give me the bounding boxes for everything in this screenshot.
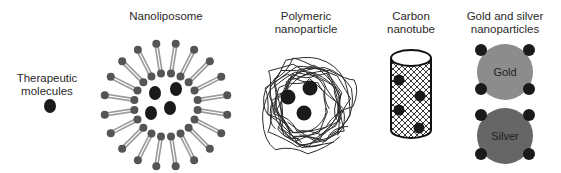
lipid-tail [111,121,138,135]
lipid-head-outer [172,40,180,48]
lipid-head-outer [107,129,115,137]
lipid-molecule [191,116,226,138]
lipid-tail [179,49,193,76]
lipid-tail [195,78,222,92]
lipid-head-outer [152,40,160,48]
lipid-tail [190,127,211,148]
encapsulated-drug [297,106,312,121]
lipid-head-outer [223,111,231,119]
lipid-head-inner [177,130,185,138]
lipid-head-outer [172,162,180,170]
lipid-tail [194,76,221,90]
encapsulated-drug [170,82,182,96]
lipid-head-inner [194,106,202,114]
nanotube-drug [414,123,425,134]
gold-surface-drug [523,83,535,95]
gold-surface-drug [475,83,487,95]
lipid-tail [182,133,196,160]
lipid-tail [121,62,142,83]
lipid-tail [179,134,193,161]
lipid-head-outer [101,91,109,99]
lipid-molecule [194,106,232,119]
lipid-tail [123,129,144,150]
lipid-molecule [101,106,139,119]
lipid-molecule [177,46,199,81]
lipid-head-inner [147,72,155,80]
encapsulated-drug [303,81,318,96]
lipid-molecule [134,130,156,165]
polymer-chains [263,57,357,153]
lipid-tail [190,62,211,83]
lipid-molecule [152,40,165,78]
lipid-tail [195,118,222,132]
lipid-tail [137,133,151,160]
therapeutic-molecule [44,99,56,113]
lipid-molecule [167,40,180,78]
lipid-molecule [177,130,199,165]
lipid-tail [111,76,138,90]
lipid-tail [182,50,196,77]
silver-surface-drug [475,109,487,121]
lipid-head-outer [101,111,109,119]
lipid-molecule [194,91,232,104]
nanotube-drug [415,91,426,102]
nanotube-drug [394,75,405,86]
lipid-head-inner [185,78,193,86]
lipid-head-inner [139,124,147,132]
lipid-head-outer [190,156,198,164]
silver-surface-drug [523,109,535,121]
lipid-head-inner [157,69,165,77]
lipid-head-inner [133,116,141,124]
lipid-head-inner [167,69,175,77]
lipid-head-inner [194,96,202,104]
lipid-head-inner [133,86,141,94]
lipid-tail [110,118,137,132]
lipid-tail [110,78,137,92]
silver-surface-drug [475,148,487,160]
lipid-head-outer [206,57,214,65]
lipid-head-outer [152,162,160,170]
lipid-head-outer [118,57,126,65]
nanotube-opening [391,50,431,66]
lipid-head-outer [206,145,214,153]
lipid-head-outer [107,73,115,81]
lipid-head-outer [217,129,225,137]
lipid-head-outer [118,145,126,153]
lipid-head-outer [134,156,142,164]
encapsulated-drug [149,86,161,100]
lipid-tail [121,127,142,148]
carbon-nanotube [391,50,431,142]
lipid-molecule [191,73,226,95]
lipid-head-inner [191,116,199,124]
lipid-head-inner [139,78,147,86]
lipid-tail [188,129,209,150]
silver-label: Silver [491,130,519,142]
lipid-head-inner [130,106,138,114]
lipid-tail [188,60,209,81]
gold-nanoparticle: Gold [475,44,535,100]
lipid-tail [123,60,144,81]
silver-nanoparticle: Silver [475,108,535,164]
lipid-head-inner [177,72,185,80]
nanoliposome [101,40,231,170]
lipid-head-inner [167,133,175,141]
lipid-head-inner [130,96,138,104]
polymeric-nanoparticle [263,57,357,153]
lipid-tail [194,121,221,135]
lipid-head-outer [217,73,225,81]
lipid-tail [139,49,153,76]
lipid-molecule [107,116,142,138]
lipid-tail [139,134,153,161]
diagram-canvas: Gold Silver [0,0,561,173]
lipid-head-inner [191,86,199,94]
lipid-head-inner [157,133,165,141]
lipid-molecule [167,133,180,171]
gold-surface-drug [523,44,535,56]
lipid-head-outer [223,91,231,99]
encapsulated-drug [281,90,296,105]
lipid-molecule [152,133,165,171]
lipid-head-outer [134,46,142,54]
lipid-tail [137,50,151,77]
lipid-head-outer [190,46,198,54]
encapsulated-drug [164,101,176,115]
